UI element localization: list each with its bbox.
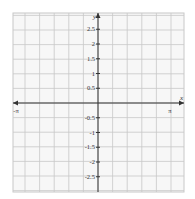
svg-text:-2.5: -2.5 bbox=[85, 173, 95, 180]
svg-text:1.5: 1.5 bbox=[87, 55, 95, 62]
svg-text:2: 2 bbox=[92, 40, 95, 47]
svg-text:-1.5: -1.5 bbox=[85, 143, 95, 150]
svg-text:0.5: 0.5 bbox=[87, 84, 95, 91]
svg-text:-1: -1 bbox=[90, 129, 95, 136]
svg-text:2.5: 2.5 bbox=[87, 25, 95, 32]
svg-text:1: 1 bbox=[92, 70, 95, 77]
svg-text:-2: -2 bbox=[90, 158, 95, 165]
svg-text:-π: -π bbox=[13, 107, 19, 114]
svg-text:-0.5: -0.5 bbox=[85, 114, 95, 121]
function-plot: 2.521.510.5-0.5-1-1.5-2-2.5-ππyx bbox=[0, 0, 195, 199]
